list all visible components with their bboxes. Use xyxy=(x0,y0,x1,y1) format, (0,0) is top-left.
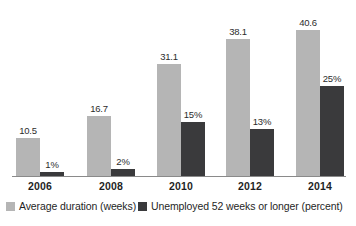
bar-unemployed-52-weeks-2014[interactable] xyxy=(320,86,344,176)
bar-average-duration-2008[interactable] xyxy=(87,116,111,176)
bar-group-2008: 16.72% xyxy=(87,0,135,177)
x-tick-label-2014: 2014 xyxy=(286,180,354,192)
bar-value-label-unemployed-52-weeks-2010: 15% xyxy=(179,109,207,120)
chart-legend: Average duration (weeks)Unemployed 52 we… xyxy=(0,200,356,216)
bar-value-label-average-duration-2006: 10.5 xyxy=(14,125,42,136)
bar-group-2006: 10.51% xyxy=(16,0,64,177)
bar-group-2010: 31.115% xyxy=(157,0,205,177)
bar-unemployed-52-weeks-2010[interactable] xyxy=(181,122,205,176)
bar-unemployed-52-weeks-2008[interactable] xyxy=(111,169,135,176)
x-axis-labels: 20062008201020122014 xyxy=(0,180,356,196)
bar-value-label-unemployed-52-weeks-2008: 2% xyxy=(109,156,137,167)
bar-value-label-unemployed-52-weeks-2014: 25% xyxy=(318,73,346,84)
bar-value-label-average-duration-2014: 40.6 xyxy=(294,17,322,28)
legend-swatch-icon xyxy=(6,202,15,211)
bar-value-label-average-duration-2008: 16.7 xyxy=(85,103,113,114)
bar-average-duration-2012[interactable] xyxy=(226,39,250,176)
bar-average-duration-2006[interactable] xyxy=(16,138,40,176)
plot-area: 10.51%16.72%31.115%38.113%40.625% xyxy=(0,0,356,177)
legend-item-average-duration[interactable]: Average duration (weeks) xyxy=(6,200,136,212)
bar-group-2014: 40.625% xyxy=(296,0,344,177)
bar-unemployed-52-weeks-2012[interactable] xyxy=(250,129,274,176)
bar-chart: 10.51%16.72%31.115%38.113%40.625% 200620… xyxy=(0,0,356,226)
x-tick-label-2010: 2010 xyxy=(147,180,215,192)
legend-label: Average duration (weeks) xyxy=(19,200,136,212)
x-tick-label-2008: 2008 xyxy=(77,180,145,192)
bar-value-label-average-duration-2010: 31.1 xyxy=(155,51,183,62)
bar-average-duration-2014[interactable] xyxy=(296,30,320,176)
x-tick-label-2006: 2006 xyxy=(6,180,74,192)
x-tick-label-2012: 2012 xyxy=(216,180,284,192)
bar-value-label-average-duration-2012: 38.1 xyxy=(224,26,252,37)
bar-average-duration-2010[interactable] xyxy=(157,64,181,176)
bar-value-label-unemployed-52-weeks-2006: 1% xyxy=(38,159,66,170)
legend-swatch-icon xyxy=(138,202,147,211)
legend-label: Unemployed 52 weeks or longer (percent) xyxy=(151,200,343,212)
legend-item-unemployed-52-weeks[interactable]: Unemployed 52 weeks or longer (percent) xyxy=(138,200,343,212)
x-axis-line xyxy=(12,176,346,177)
bar-value-label-unemployed-52-weeks-2012: 13% xyxy=(248,116,276,127)
bar-group-2012: 38.113% xyxy=(226,0,274,177)
